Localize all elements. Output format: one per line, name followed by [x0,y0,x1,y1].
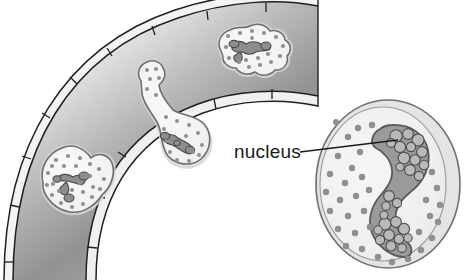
leukocyte-enlarged-detail [316,100,460,268]
label-nucleus-text: nucleus [234,141,301,162]
diapedesis-illustration: nucleus [0,0,466,280]
illustration-root: nucleus [0,0,466,280]
